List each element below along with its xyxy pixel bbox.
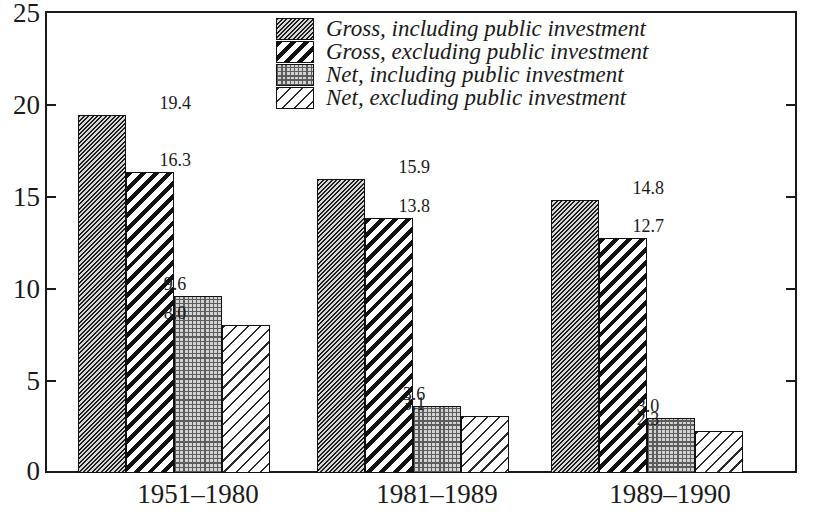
legend-swatch-gross-excluding-icon [276,41,314,63]
bar [317,179,365,473]
y-tick-label-0: 0 [0,458,40,485]
y-tick-label-25: 25 [0,0,40,27]
bar-value-label: 16.3 [160,151,192,169]
x-tick-label-2: 1981–1989 [376,479,498,510]
legend-item-2: Gross, excluding public investment [276,40,636,63]
bar [551,200,599,474]
bar [365,218,413,473]
bar-value-label: 19.4 [160,94,192,112]
y-tick-label-10: 10 [0,276,40,303]
bar [461,416,509,473]
legend-label-4: Net, excluding public investment [326,86,626,109]
legend-item-3: Net, including public investment [276,63,636,86]
legend-swatch-net-including-icon [276,64,314,86]
x-axis: 1951–1980 1981–1989 1989–1990 [45,479,797,519]
bar [695,431,743,474]
bar-value-label: 9.6 [164,275,187,293]
legend-label-2: Gross, excluding public investment [326,40,648,63]
x-tick-label-3: 1989–1990 [609,479,731,510]
legend-item-1: Gross, including public investment [276,17,636,40]
bar-value-label: 14.8 [633,179,665,197]
x-tick-label-1: 1951–1980 [137,479,259,510]
bar-group: 19.416.39.68.0 [78,11,270,473]
bar-value-label: 12.7 [633,217,665,235]
bar-chart: 25 20 15 10 5 0 19.416.39.68.015.913.83.… [0,0,814,525]
y-tick-label-20: 20 [0,92,40,119]
y-axis: 25 20 15 10 5 0 [0,0,45,525]
legend-label-1: Gross, including public investment [326,17,646,40]
bar [78,115,126,474]
bar-value-label: 15.9 [399,158,431,176]
bar-value-label: 2.3 [637,410,660,428]
bar [222,325,270,473]
legend-swatch-net-excluding-icon [276,87,314,109]
bar [413,406,461,473]
y-tick-label-15: 15 [0,184,40,211]
y-tick-label-5: 5 [0,368,40,395]
legend-label-3: Net, including public investment [326,63,624,86]
bar-value-label: 13.8 [399,197,431,215]
legend-item-4: Net, excluding public investment [276,86,636,109]
legend: Gross, including public investment Gross… [276,17,636,109]
bar-value-label: 8.0 [164,304,187,322]
bar [599,238,647,473]
bar-value-label: 3.1 [403,395,426,413]
legend-swatch-gross-including-icon [276,18,314,40]
